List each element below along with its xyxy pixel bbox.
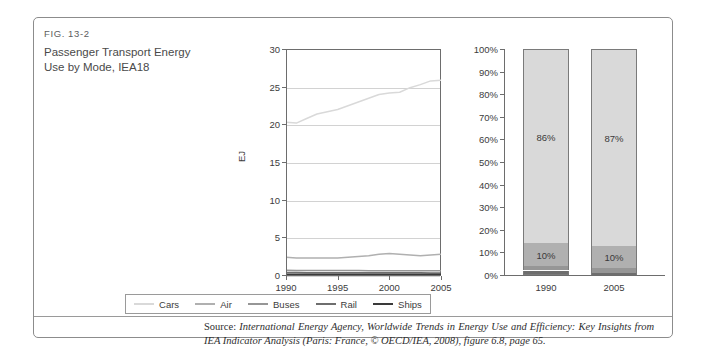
figure-caption: FIG. 13-2 Passenger Transport Energy Use… (44, 28, 204, 75)
legend-label: Buses (273, 299, 299, 310)
bar-segment-rail (523, 271, 569, 274)
figure-number: FIG. 13-2 (44, 28, 204, 39)
x-axis-tick-mark (441, 276, 442, 280)
source-prefix: Source: (204, 321, 239, 332)
bar-segment-cars: 87% (591, 49, 637, 246)
line-chart-plot-area (286, 49, 441, 275)
bar-segment-air: 10% (523, 243, 569, 266)
x-axis-tick-label: 2000 (369, 282, 409, 293)
source-citation: Source: International Energy Agency, Wor… (204, 320, 654, 348)
legend-item-ships[interactable]: Ships (373, 299, 422, 310)
bar-chart-plot-area: 10%86%10%87% (504, 49, 652, 275)
y-axis-tick-label: 30% (479, 202, 498, 213)
legend-label: Rail (341, 299, 357, 310)
legend-swatch-icon (373, 303, 393, 306)
x-axis-tick-label: 1995 (318, 282, 358, 293)
y-axis-tick-label: 15 (269, 157, 280, 168)
line-series-air (286, 253, 441, 258)
bar-segment-cars: 86% (523, 49, 569, 243)
chart-legend: CarsAirBusesRailShips (125, 294, 431, 314)
legend-swatch-icon (316, 303, 336, 306)
y-axis-tick-label: 80% (479, 89, 498, 100)
bar-segment-buses (591, 268, 637, 273)
bar-segment-label: 86% (524, 132, 568, 143)
bar-segment-label: 10% (592, 251, 636, 262)
y-axis-tick-label: 25 (269, 81, 280, 92)
y-axis-tick-label: 20 (269, 119, 280, 130)
legend-swatch-icon (248, 303, 268, 305)
x-axis-line (504, 275, 665, 276)
y-axis-tick-label: 5 (275, 232, 280, 243)
gridline (286, 276, 440, 277)
bar-segment-air: 10% (591, 246, 637, 269)
legend-item-air[interactable]: Air (195, 299, 232, 310)
bar-column-2005[interactable]: 10%87% (591, 49, 637, 275)
y-axis-tick-label: 50% (479, 157, 498, 168)
legend-label: Ships (398, 299, 422, 310)
x-axis-tick-label: 1990 (266, 282, 306, 293)
legend-label: Cars (159, 299, 179, 310)
y-axis-tick-label: 100% (474, 44, 498, 55)
source-citation-text: International Energy Agency, Worldwide T… (204, 321, 654, 346)
x-axis-tick-label: 1990 (521, 282, 571, 293)
y-axis-tick-label: 40% (479, 179, 498, 190)
y-axis-tick-label: 60% (479, 134, 498, 145)
bar-column-1990[interactable]: 10%86% (523, 49, 569, 275)
bar-segment-buses (523, 266, 569, 271)
bar-chart: 10%86%10%87% 0%10%20%30%40%50%60%70%80%9… (454, 32, 669, 297)
x-axis-tick-label: 2005 (589, 282, 639, 293)
y-axis-tick-label: 70% (479, 111, 498, 122)
legend-label: Air (220, 299, 232, 310)
line-chart: EJ 0510152025301990199520002005 (234, 32, 449, 297)
figure-title: Passenger Transport Energy Use by Mode, … (44, 45, 204, 75)
y-axis-tick-label: 0% (484, 270, 498, 281)
bar-segment-label: 10% (524, 249, 568, 260)
legend-swatch-icon (134, 303, 154, 305)
y-axis-tick-label: 20% (479, 224, 498, 235)
legend-item-buses[interactable]: Buses (248, 299, 299, 310)
figure-container: FIG. 13-2 Passenger Transport Energy Use… (33, 17, 673, 338)
y-axis-tick-label: 10 (269, 194, 280, 205)
y-axis-line (286, 49, 287, 275)
y-axis-tick-label: 0 (275, 270, 280, 281)
line-series-cars (286, 80, 441, 123)
x-axis-tick-mark (338, 276, 339, 280)
x-axis-line (286, 275, 441, 276)
x-axis-tick-mark (286, 276, 287, 280)
legend-item-rail[interactable]: Rail (316, 299, 357, 310)
y-axis-line (504, 49, 505, 275)
y-axis-tick-label: 10% (479, 247, 498, 258)
y-axis-tick-label: 90% (479, 66, 498, 77)
line-chart-y-axis-label: EJ (236, 151, 247, 162)
line-chart-series-svg (286, 50, 441, 276)
legend-swatch-icon (195, 303, 215, 305)
bar-segment-label: 87% (592, 133, 636, 144)
y-axis-tick-label: 30 (269, 44, 280, 55)
legend-item-cars[interactable]: Cars (134, 299, 179, 310)
source-divider (34, 316, 672, 317)
x-axis-tick-mark (389, 276, 390, 280)
